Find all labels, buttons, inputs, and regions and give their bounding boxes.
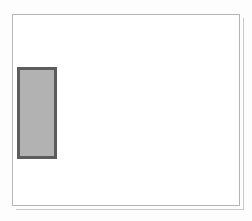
drawing-canvas-frame[interactable]	[12, 14, 240, 206]
canvas-surface[interactable]	[13, 15, 239, 205]
shape-rectangle[interactable]	[17, 67, 57, 159]
